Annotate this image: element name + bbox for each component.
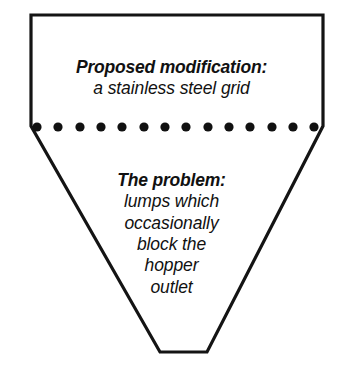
grid-dot bbox=[288, 122, 297, 131]
grid-dot bbox=[203, 122, 212, 131]
hopper-cross-section-diagram: Proposed modification: a stainless steel… bbox=[0, 0, 343, 386]
grid-dot bbox=[309, 122, 318, 131]
grid-dot bbox=[53, 122, 62, 131]
grid-dot bbox=[139, 122, 148, 131]
hopper-body-outline bbox=[31, 15, 323, 352]
grid-dot bbox=[267, 122, 276, 131]
hopper-outline-svg bbox=[0, 0, 343, 386]
grid-dot bbox=[117, 122, 126, 131]
grid-dot bbox=[75, 122, 84, 131]
grid-dot bbox=[245, 122, 254, 131]
grid-dot bbox=[160, 122, 169, 131]
grid-dot bbox=[181, 122, 190, 131]
grid-dot bbox=[32, 122, 41, 131]
grid-dot bbox=[224, 122, 233, 131]
grid-dot bbox=[96, 122, 105, 131]
